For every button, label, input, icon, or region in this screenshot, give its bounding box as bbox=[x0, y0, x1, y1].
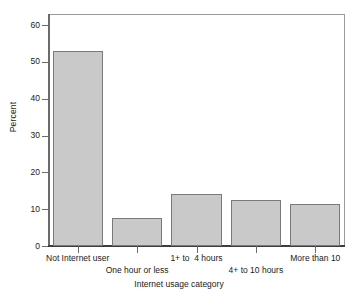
y-tick-label: 10 bbox=[0, 205, 40, 214]
x-tick-mark bbox=[197, 246, 198, 253]
x-tick-label: More than 10 bbox=[290, 254, 340, 263]
bar-chart-figure: Percent 0102030405060 Not Internet userO… bbox=[0, 0, 358, 300]
x-tick-mark bbox=[78, 246, 79, 253]
x-tick-label: 1+ to 4 hours bbox=[170, 254, 222, 263]
x-tick-label: 4+ to 10 hours bbox=[229, 266, 284, 275]
bar-series bbox=[48, 14, 345, 246]
bar bbox=[290, 204, 340, 246]
y-tick-label: 0 bbox=[0, 242, 40, 251]
y-tick-label: 50 bbox=[0, 57, 40, 66]
x-tick-mark bbox=[256, 246, 257, 253]
bar bbox=[53, 51, 103, 246]
x-tick-label: One hour or less bbox=[106, 266, 169, 275]
x-tick-mark bbox=[137, 246, 138, 253]
y-tick-mark bbox=[42, 246, 48, 247]
bar bbox=[112, 218, 162, 246]
bar bbox=[231, 200, 281, 246]
x-axis-title: Internet usage category bbox=[0, 279, 358, 289]
y-tick-label: 20 bbox=[0, 168, 40, 177]
x-tick-mark bbox=[315, 246, 316, 253]
y-axis-title: Percent bbox=[8, 82, 18, 152]
y-tick-label: 30 bbox=[0, 131, 40, 140]
y-tick-label: 60 bbox=[0, 21, 40, 30]
bar bbox=[171, 194, 221, 246]
y-tick-label: 40 bbox=[0, 94, 40, 103]
x-tick-label: Not Internet user bbox=[46, 254, 109, 263]
